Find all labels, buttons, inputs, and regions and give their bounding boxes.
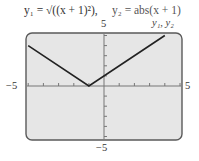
graph-screen [0, 0, 199, 161]
